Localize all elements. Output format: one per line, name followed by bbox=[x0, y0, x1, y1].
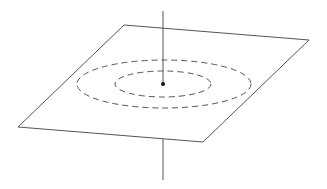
diagram-canvas bbox=[0, 0, 327, 189]
center-point bbox=[161, 82, 165, 86]
